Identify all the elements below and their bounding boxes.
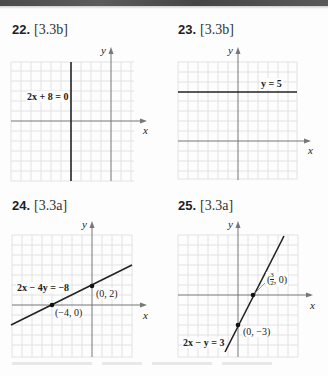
point-label: (0, −3) (242, 326, 271, 337)
x-axis-label: x (310, 299, 315, 311)
equation-label: 2x − y = 3 (182, 337, 225, 348)
cropped-footer-text (12, 362, 312, 368)
point-label: ( 3 2 , 0) (266, 272, 288, 287)
x-axis-arrow-icon (306, 293, 313, 298)
y-axis-label: y (228, 218, 233, 230)
point-marker (251, 293, 256, 298)
graph-25 (0, 0, 328, 376)
point-marker (236, 323, 241, 328)
y-axis-arrow-icon (236, 221, 241, 228)
